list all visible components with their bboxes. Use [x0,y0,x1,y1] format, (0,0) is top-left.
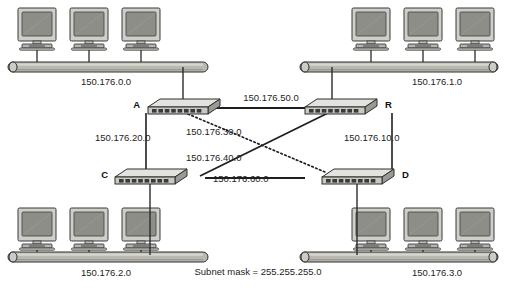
lan-label: 150.176.2.0 [81,267,131,278]
router-d-label: D [402,169,409,180]
router-d[interactable]: D [322,169,409,184]
host-monitor [70,8,108,50]
host-monitor [456,208,494,250]
host-monitor [18,8,56,50]
network-diagram-canvas: 150.176.0.0 150.176.1.0 150.1 [0,0,506,293]
link-a-c-label: 150.176.20.0 [95,132,150,143]
bus-cable [8,252,208,262]
router-a-label: A [133,99,140,110]
link-c-r-label: 150.176.40.0 [186,152,241,163]
host-monitor [352,8,390,50]
host-monitor [352,208,390,250]
lan-bottom-right: 150.176.3.0 [300,208,498,278]
host-monitor [122,208,160,250]
subnet-mask-caption: Subnet mask = 255.255.255.0 [194,266,321,277]
host-monitor [404,208,442,250]
lan-label: 150.176.1.0 [412,76,462,87]
router-a[interactable]: A [133,99,220,114]
lan-bottom-left: 150.176.2.0 [8,208,208,278]
router-r-label: R [385,99,392,110]
bus-cable [8,62,208,72]
router-c[interactable]: C [101,169,187,184]
link-c-r-line [200,112,330,176]
host-monitor [456,8,494,50]
link-c-d-label: 150.176.60.0 [213,173,268,184]
router-r[interactable]: R [305,99,392,114]
host-monitor [70,208,108,250]
link-r-d-label: 150.176.10.0 [344,132,399,143]
lan-top-left: 150.176.0.0 [8,8,208,87]
link-a-r-label: 150.176.50.0 [243,92,298,103]
lan-label: 150.176.0.0 [81,76,131,87]
host-monitor [404,8,442,50]
link-a-d-label: 150.176.30.0 [186,126,241,137]
lan-label: 150.176.3.0 [412,267,462,278]
bus-cable [300,252,498,262]
lan-top-right: 150.176.1.0 [300,8,498,87]
host-monitor [18,208,56,250]
bus-cable [300,62,498,72]
host-monitor [122,8,160,50]
router-c-label: C [101,169,108,180]
link-a-d-line [188,114,325,172]
